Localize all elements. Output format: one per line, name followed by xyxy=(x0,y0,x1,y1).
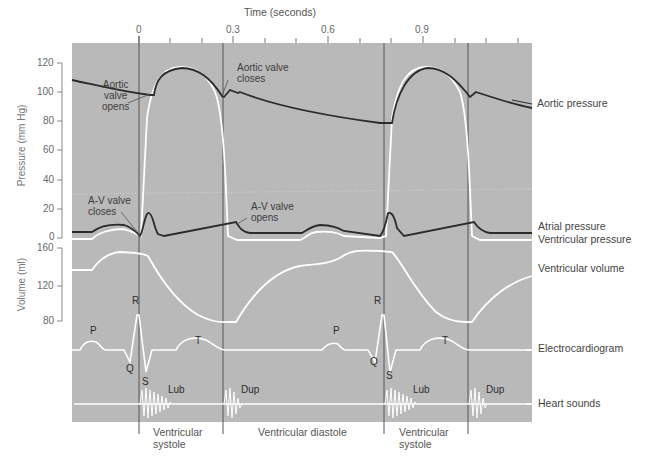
ecg-p-wave-label-2: P xyxy=(333,325,340,336)
electrocardiogram-label: Electrocardiogram xyxy=(538,342,623,354)
time-axis-title: Time (seconds) xyxy=(244,6,316,18)
pressure-axis xyxy=(57,63,62,238)
volume-axis xyxy=(57,248,62,321)
ventricular-volume-label: Ventricular volume xyxy=(538,262,624,274)
ecg-r-wave-label-1: R xyxy=(132,295,139,306)
phase-systole-1: Ventricular systole xyxy=(153,426,203,450)
pressure-tick-100: 100 xyxy=(37,86,54,97)
aortic-valve-closes-label: Aortic valve closes xyxy=(237,62,289,84)
time-tick-0-3: 0.3 xyxy=(226,24,240,35)
pressure-tick-80: 80 xyxy=(43,115,54,126)
phase-systole-2: Ventricular systole xyxy=(399,426,449,450)
ecg-t-wave-label-2: T xyxy=(442,335,448,346)
pressure-tick-40: 40 xyxy=(43,174,54,185)
pressure-tick-120: 120 xyxy=(37,57,54,68)
volume-tick-160: 160 xyxy=(37,242,54,253)
heart-sounds-label: Heart sounds xyxy=(538,397,600,409)
phase-diastole: Ventricular diastole xyxy=(258,426,347,438)
dup-label-1: Dup xyxy=(241,384,259,395)
aortic-valve-opens-label: Aortic valve opens xyxy=(102,79,129,112)
pressure-tick-60: 60 xyxy=(43,144,54,155)
atrial-pressure-label: Atrial pressure xyxy=(538,220,606,232)
pressure-tick-0: 0 xyxy=(49,231,55,242)
volume-tick-120: 120 xyxy=(37,280,54,291)
dup-label-2: Dup xyxy=(486,384,504,395)
ecg-t-wave-label-1: T xyxy=(195,335,201,346)
ecg-s-wave-label-2: S xyxy=(386,370,393,381)
ecg-q-wave-label-2: Q xyxy=(370,356,378,367)
time-tick-0-9: 0.9 xyxy=(415,24,429,35)
ecg-r-wave-label-2: R xyxy=(374,295,381,306)
time-axis-ticks xyxy=(139,36,518,43)
av-valve-closes-label: A-V valve closes xyxy=(88,195,131,217)
lub-label-1: Lub xyxy=(168,384,185,395)
volume-tick-80: 80 xyxy=(43,315,54,326)
ecg-p-wave-label-1: P xyxy=(90,325,97,336)
av-valve-opens-label: A-V valve opens xyxy=(251,201,294,223)
volume-axis-title: Volume (ml) xyxy=(16,250,27,320)
lub-label-2: Lub xyxy=(413,384,430,395)
pressure-axis-title: Pressure (mm Hg) xyxy=(16,96,27,196)
time-tick-0: 0 xyxy=(136,24,142,35)
ecg-q-wave-label-1: Q xyxy=(126,363,134,374)
time-tick-0-6: 0.6 xyxy=(321,24,335,35)
pressure-tick-20: 20 xyxy=(43,203,54,214)
ecg-s-wave-label-1: S xyxy=(142,376,149,387)
aortic-pressure-label: Aortic pressure xyxy=(537,97,608,109)
ventricular-pressure-label: Ventricular pressure xyxy=(538,233,631,245)
